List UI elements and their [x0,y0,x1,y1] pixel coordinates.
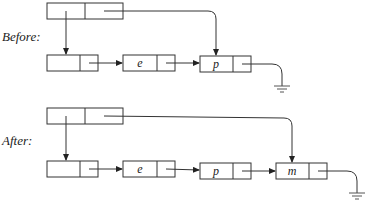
after-tail-pointer [104,116,292,162]
svg-text:p: p [212,57,219,71]
before-label: Before: [2,29,41,44]
linked-list-diagram: Before: e p [0,0,372,202]
after-panel: After: e p m [1,108,365,199]
svg-text:p: p [212,164,219,178]
svg-text:e: e [137,56,143,70]
svg-text:e: e [137,162,143,176]
ground-icon [349,193,365,199]
before-panel: Before: e p [2,3,290,92]
after-label: After: [1,133,32,148]
svg-text:m: m [288,164,297,178]
ground-icon [274,86,290,92]
